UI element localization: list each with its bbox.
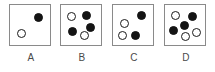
option-b-label: B	[57, 52, 107, 64]
filled-circle-icon	[82, 11, 91, 20]
option-c-label: C	[109, 52, 159, 64]
filled-circle-icon	[68, 27, 77, 36]
open-circle-icon	[192, 28, 201, 37]
option-b[interactable]: B	[57, 0, 107, 72]
filled-circle-icon	[34, 13, 43, 22]
open-circle-icon	[118, 31, 127, 40]
filled-circle-icon	[180, 21, 189, 30]
option-d[interactable]: D	[161, 0, 211, 72]
option-a-label: A	[6, 52, 56, 64]
open-circle-icon	[120, 19, 129, 28]
open-circle-icon	[171, 11, 180, 20]
option-d-label: D	[161, 52, 211, 64]
option-d-box	[164, 4, 206, 46]
open-circle-icon	[17, 29, 26, 38]
filled-circle-icon	[137, 11, 146, 20]
open-circle-icon	[181, 32, 190, 41]
filled-circle-icon	[169, 26, 178, 35]
filled-circle-icon	[131, 31, 140, 40]
option-b-box	[60, 4, 102, 46]
option-c[interactable]: C	[109, 0, 159, 72]
option-a[interactable]: A	[6, 0, 56, 72]
filled-circle-icon	[86, 23, 95, 32]
filled-circle-icon	[188, 12, 197, 21]
answer-options-figure: ABCD	[0, 0, 215, 72]
option-a-box	[9, 4, 51, 46]
open-circle-icon	[80, 31, 89, 40]
open-circle-icon	[67, 12, 76, 21]
option-c-box	[112, 4, 154, 46]
